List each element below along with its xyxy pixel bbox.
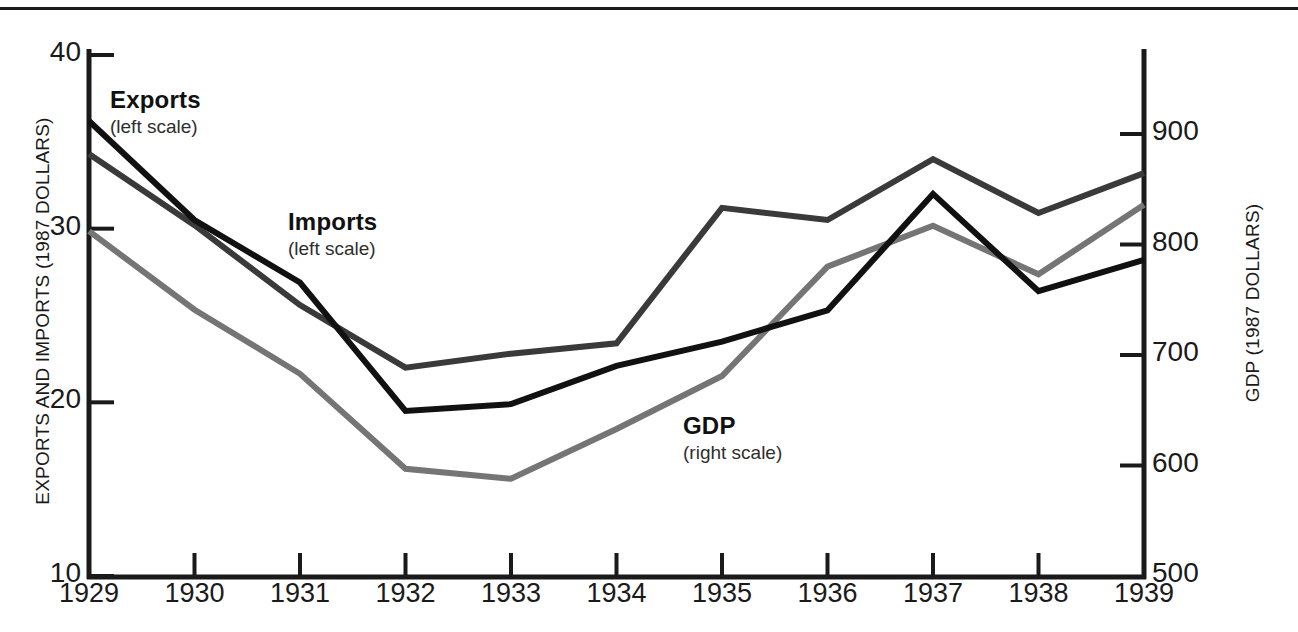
- series-label-gdp: GDP (right scale): [683, 412, 782, 464]
- series-label-exports-scale: (left scale): [110, 116, 201, 138]
- series-line-imports: [89, 154, 1144, 368]
- x-tick-label: 1933: [451, 578, 571, 609]
- series-label-exports: Exports (left scale): [110, 86, 201, 138]
- series-label-imports: Imports (left scale): [288, 208, 377, 260]
- bottom-axis-ticks: [195, 553, 1039, 577]
- right-tick-label: 600: [1152, 447, 1232, 479]
- chart-figure: EXPORTS AND IMPORTS (1987 DOLLARS) GDP (…: [0, 0, 1298, 632]
- series-label-gdp-scale: (right scale): [683, 442, 782, 464]
- series-label-exports-name: Exports: [110, 86, 201, 114]
- x-tick-label: 1935: [662, 578, 782, 609]
- series-label-imports-name: Imports: [288, 208, 377, 236]
- left-tick-label: 30: [11, 210, 81, 242]
- right-tick-label: 800: [1152, 226, 1232, 258]
- x-tick-label: 1932: [346, 578, 466, 609]
- series-label-gdp-name: GDP: [683, 412, 782, 440]
- x-tick-label: 1929: [29, 578, 149, 609]
- series-label-imports-scale: (left scale): [288, 238, 377, 260]
- left-tick-label: 40: [11, 36, 81, 68]
- x-tick-label: 1930: [135, 578, 255, 609]
- x-tick-label: 1931: [240, 578, 360, 609]
- left-axis-title: EXPORTS AND IMPORTS (1987 DOLLARS): [32, 101, 54, 521]
- right-tick-label: 900: [1152, 115, 1232, 147]
- right-axis-title: GDP (1987 DOLLARS): [1242, 133, 1264, 473]
- series-lines: [89, 121, 1144, 479]
- axis-lines: [87, 49, 1146, 579]
- right-tick-label: 700: [1152, 336, 1232, 368]
- x-tick-label: 1937: [873, 578, 993, 609]
- x-tick-label: 1939: [1084, 578, 1204, 609]
- left-tick-label: 20: [11, 383, 81, 415]
- x-tick-label: 1936: [768, 578, 888, 609]
- x-tick-label: 1934: [557, 578, 677, 609]
- x-tick-label: 1938: [979, 578, 1099, 609]
